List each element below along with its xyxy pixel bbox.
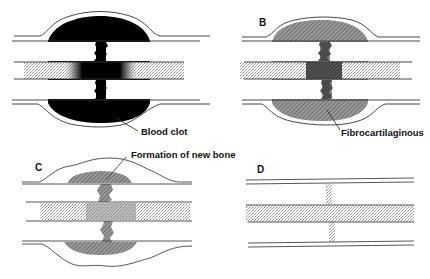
- panel-label-d: D: [257, 164, 264, 175]
- label-fibrocartilaginous: Fibrocartilaginous: [341, 127, 424, 138]
- fracture-healing-diagram: Blood clot B Fibrocartilaginous: [0, 0, 430, 279]
- new-bone-callus-top: [68, 171, 132, 183]
- panel-label-b: B: [259, 17, 266, 28]
- panel-c: C Formation of new bone: [22, 149, 236, 266]
- label-blood-clot: Blood clot: [141, 126, 188, 137]
- panel-b: B Fibrocartilaginous: [240, 17, 424, 138]
- panel-d: D: [246, 164, 414, 247]
- panel-label-c: C: [35, 162, 42, 173]
- label-formation-new-bone: Formation of new bone: [131, 149, 236, 160]
- new-bone-callus-bottom: [64, 242, 137, 255]
- panel-a: Blood clot: [12, 12, 210, 138]
